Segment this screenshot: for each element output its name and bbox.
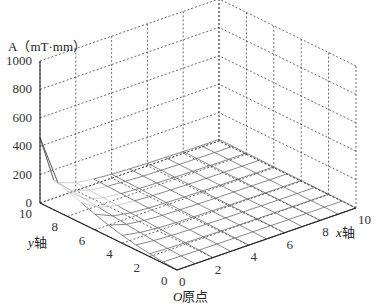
surface-mesh-line [211, 159, 229, 165]
surface-mesh-line [238, 173, 256, 179]
origin-label-suffix: 原点 [182, 289, 208, 304]
surface-mesh-line [165, 157, 179, 164]
y-axis-label-suffix: 轴 [34, 235, 47, 250]
surface-mesh-line [190, 224, 208, 230]
surface-mesh-line [307, 207, 325, 213]
surface-mesh-line [265, 193, 279, 200]
surface-mesh-line [216, 192, 234, 198]
grid-right-wall-h [219, 84, 356, 151]
surface-mesh-line [180, 210, 194, 217]
surface-mesh-line [256, 167, 274, 173]
x-tick-label: 8 [322, 225, 329, 238]
surface-mesh-line [172, 230, 190, 236]
surface-mesh-line [215, 152, 229, 159]
surface-mesh-line [297, 194, 311, 201]
surface-mesh-line [221, 225, 239, 231]
surface-mesh-line [324, 207, 338, 214]
surface-mesh-line [283, 187, 297, 194]
surface-mesh-line [202, 191, 216, 198]
y-tick-label: 0 [161, 274, 168, 287]
surface-mesh-line [206, 172, 224, 178]
surface-mesh-line [197, 159, 211, 166]
surface-mesh-line [288, 174, 302, 181]
surface-mesh-line [149, 208, 163, 215]
surface-mesh-line [283, 180, 301, 186]
surface-mesh-line [239, 225, 253, 232]
surface-mesh-line [181, 256, 195, 264]
surface-mesh-line [208, 224, 222, 231]
grid-right-wall-h [219, 56, 356, 123]
grid-back-wall-h [40, 113, 219, 175]
surface-mesh-line [94, 174, 112, 179]
surface-mesh-line [271, 220, 289, 226]
surface-mesh-line [324, 201, 342, 207]
surface-mesh-line [112, 169, 130, 174]
surface-mesh-line [271, 226, 285, 233]
surface-mesh-line [135, 196, 153, 201]
surface-mesh-line [212, 205, 230, 211]
surface-mesh-line [143, 170, 161, 176]
origin-label: O原点 [173, 290, 208, 303]
surface-mesh-line [256, 173, 270, 180]
surface-mesh-line [293, 207, 307, 214]
surface-mesh-line [289, 213, 307, 219]
surface-mesh-line [265, 187, 283, 193]
surface-mesh-line [257, 213, 275, 219]
surface-mesh-line [233, 146, 247, 153]
surface-mesh-line [301, 180, 315, 187]
y-axis-label: y轴 [28, 236, 47, 249]
surface-mesh-line [193, 165, 211, 171]
surface-mesh-line [201, 146, 215, 153]
surface-mesh-line [189, 184, 203, 191]
surface-mesh-line [242, 166, 256, 173]
surface-mesh-line [217, 238, 235, 244]
surface-mesh-line [270, 180, 284, 187]
x-axis-label-suffix: 轴 [342, 225, 355, 240]
surface-mesh-line [199, 244, 217, 250]
surface-mesh-line [136, 245, 150, 254]
surface-mesh-line [122, 232, 140, 235]
grid-floor-y [150, 195, 329, 257]
surface-mesh-line [215, 146, 233, 152]
surface-mesh-line [242, 160, 260, 166]
surface-mesh-line [243, 212, 257, 219]
surface-mesh-line [158, 223, 176, 228]
surface-mesh-line [149, 203, 167, 208]
surface-mesh-line [208, 218, 226, 224]
surface-mesh-line [239, 219, 257, 225]
surface-mesh-line [289, 220, 303, 227]
x-tick-label: 4 [251, 250, 258, 263]
surface-mesh-line [121, 194, 135, 201]
surface-mesh-line [220, 179, 238, 185]
surface-mesh-line [103, 194, 121, 198]
z-tick-label: 800 [13, 82, 33, 95]
grid-floor-y [40, 141, 219, 203]
grid-right-wall-h [219, 27, 356, 94]
surface-mesh-line [253, 232, 267, 239]
surface-mesh-line [275, 213, 289, 220]
surface-mesh-line [180, 204, 198, 210]
z-tick-label: 600 [13, 111, 33, 124]
surface-mesh-line [238, 179, 252, 186]
surface-mesh-line [235, 232, 253, 238]
surface-mesh-line [154, 241, 168, 249]
surface-mesh-line [95, 214, 109, 225]
surface-mesh-line [90, 186, 108, 190]
surface-mesh-line [307, 213, 321, 220]
surface-mesh-line [293, 200, 311, 206]
surface-mesh-line [181, 250, 199, 256]
surface-mesh-line [172, 235, 186, 242]
surface-mesh-line [311, 200, 325, 207]
surface-mesh-line [90, 190, 104, 198]
surface-mesh-line [203, 231, 221, 237]
grid-right-wall-h [219, 0, 356, 66]
surface-mesh-line [252, 186, 266, 193]
surface-mesh-line [198, 204, 212, 211]
surface-mesh-line [103, 198, 117, 206]
surface-mesh-line [248, 199, 262, 206]
surface-mesh-line [257, 219, 271, 226]
surface-mesh-line [190, 230, 204, 237]
surface-mesh-line [279, 200, 293, 207]
surface-mesh-line [234, 186, 252, 192]
surface-mesh-line [197, 152, 215, 158]
